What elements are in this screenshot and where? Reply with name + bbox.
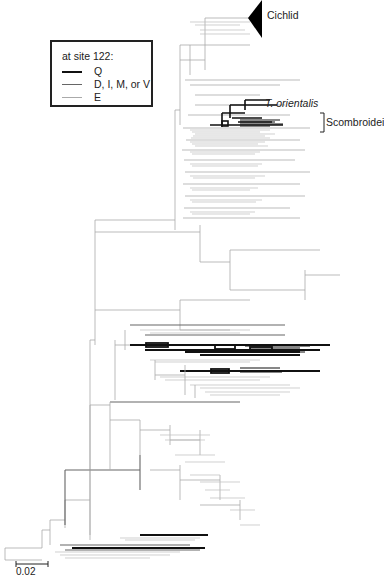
legend-title: at site 122: (62, 50, 113, 62)
scombroidei-label: Scombroidei (326, 116, 384, 128)
legend-swatch-e (62, 97, 82, 98)
scale-bar-label: 0.02 (16, 566, 35, 577)
collapsed-clade-triangle (248, 0, 262, 38)
legend-swatch-dimv (62, 84, 82, 85)
cichlid-label: Cichlid (267, 9, 299, 21)
legend-swatch-q (62, 71, 82, 73)
t-orientalis-label: T. orientalis (265, 97, 318, 109)
legend: at site 122: Q D, I, M, or V E (50, 40, 153, 107)
